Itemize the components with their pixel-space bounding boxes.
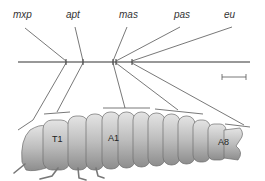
- segment-label-a8: A8: [218, 137, 229, 147]
- diagram-lines: [0, 0, 265, 181]
- segment-label-t1: T1: [52, 134, 63, 144]
- segment-label-a1: A1: [108, 133, 119, 143]
